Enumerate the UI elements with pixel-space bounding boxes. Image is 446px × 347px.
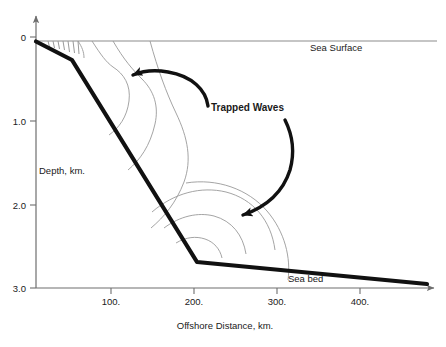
axes-group: [30, 16, 434, 294]
y-tick-label-0: 0: [21, 32, 26, 43]
y-tick-label-2: 2.0: [13, 200, 26, 211]
y-tick-label-1: 1.0: [13, 116, 26, 127]
x-tick-label-300: 300.: [268, 296, 287, 307]
sea-surface-label: Sea Surface: [310, 42, 362, 53]
diagram-canvas: 0 1.0 2.0 3.0 100. 200. 300. 400. Offsho…: [0, 0, 446, 347]
sea-bed-label: Sea bed: [288, 273, 323, 284]
x-tick-label-200: 200.: [185, 296, 204, 307]
y-axis-title: Depth, km.: [39, 165, 85, 176]
y-tick-label-3: 3.0: [13, 283, 26, 294]
sea-bed-profile: [36, 42, 427, 285]
x-axis-title: Offshore Distance, km.: [177, 320, 273, 331]
wave-trapping-diagram: 0 1.0 2.0 3.0 100. 200. 300. 400. Offsho…: [0, 0, 446, 347]
ray-upper-3: [113, 41, 156, 170]
ray-lower-2: [164, 215, 246, 255]
lower-pointer-arrow: [243, 120, 292, 215]
x-tick-label-400: 400.: [351, 296, 370, 307]
trapped-waves-label: Trapped Waves: [211, 102, 284, 113]
x-tick-label-100: 100.: [102, 296, 121, 307]
